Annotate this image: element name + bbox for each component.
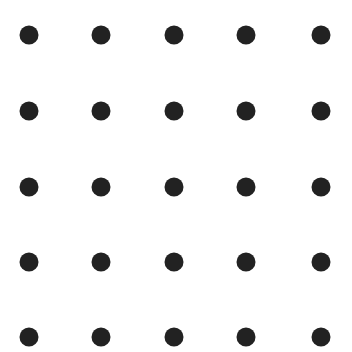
dot	[312, 328, 331, 347]
dot	[165, 26, 184, 45]
dot	[312, 178, 331, 197]
dot	[92, 253, 111, 272]
dot	[165, 328, 184, 347]
dot	[165, 178, 184, 197]
dot	[312, 102, 331, 121]
dot	[20, 26, 39, 45]
dot	[312, 26, 331, 45]
dot	[20, 328, 39, 347]
dot	[165, 102, 184, 121]
dot	[237, 328, 256, 347]
dot	[20, 253, 39, 272]
dot	[165, 253, 184, 272]
dot	[237, 26, 256, 45]
dot-grid	[0, 0, 352, 352]
dot	[92, 26, 111, 45]
dot	[237, 102, 256, 121]
dot	[92, 178, 111, 197]
dot	[92, 328, 111, 347]
dot	[20, 102, 39, 121]
dot	[237, 253, 256, 272]
dot	[92, 102, 111, 121]
dot	[20, 178, 39, 197]
dot	[312, 253, 331, 272]
dot	[237, 178, 256, 197]
